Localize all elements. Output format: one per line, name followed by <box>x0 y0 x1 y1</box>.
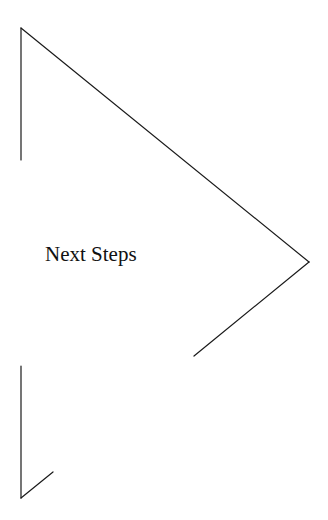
lower-right-diagonal-line <box>194 262 309 356</box>
next-steps-label: Next Steps <box>45 240 137 268</box>
bottom-short-diagonal-line <box>21 472 53 498</box>
upper-diagonal-line <box>21 28 309 262</box>
